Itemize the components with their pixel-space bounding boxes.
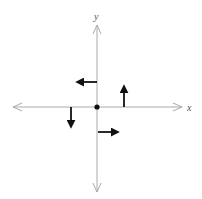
vector-field-diagram: y x (0, 0, 202, 199)
y-axis-label: y (93, 11, 99, 22)
x-axis-label: x (186, 102, 192, 113)
origin-point (94, 104, 99, 109)
